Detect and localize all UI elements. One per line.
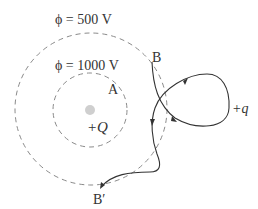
charge-path — [101, 62, 229, 187]
point-b-label: B — [152, 50, 161, 65]
test-charge-label: +q — [232, 101, 248, 116]
outer-potential-label: ϕ = 500 V — [55, 12, 112, 27]
point-a-label: A — [108, 82, 119, 97]
point-b-prime-label: B′ — [93, 192, 105, 207]
equipotential-diagram: ϕ = 500 V ϕ = 1000 V A +Q B +q B′ — [0, 0, 258, 209]
inner-potential-label: ϕ = 1000 V — [55, 58, 119, 73]
source-charge-label: +Q — [87, 119, 108, 135]
source-charge-dot — [85, 105, 95, 115]
